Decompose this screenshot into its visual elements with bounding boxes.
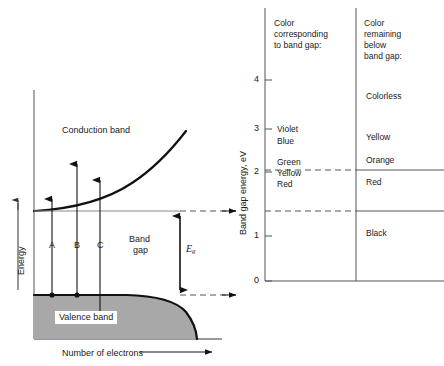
- y-tick-4: 4: [254, 74, 259, 85]
- figure-canvas: Energy Number of electrons Conduction ba…: [0, 0, 444, 366]
- band-gap-symbol-subscript: g: [192, 247, 196, 255]
- color-entry-red: Red: [277, 179, 293, 190]
- transition-label-a: A: [49, 240, 55, 251]
- column2-header-line3: below: [364, 40, 386, 51]
- column1-header-line2: corresponding: [274, 29, 328, 40]
- conduction-band-curve: [34, 131, 186, 211]
- transition-label-c: C: [97, 240, 104, 251]
- y-tick-2: 2: [254, 166, 259, 177]
- right-chart-ticks: [265, 80, 272, 281]
- column1-header-line1: Color: [274, 18, 294, 29]
- y-tick-3: 3: [254, 123, 259, 134]
- remaining-entry-colorless: Colorless: [366, 91, 401, 102]
- valence-band-label: Valence band: [55, 311, 117, 324]
- remaining-entry-black: Black: [366, 228, 387, 239]
- left-energy-axis-label: Energy: [16, 246, 27, 275]
- column1-header-line3: to band gap:: [274, 40, 321, 51]
- y-tick-0: 0: [254, 275, 259, 286]
- y-tick-1: 1: [254, 230, 259, 241]
- right-chart-y-axis-label: Band gap energy, eV: [238, 151, 249, 235]
- color-entry-yellow: Yellow: [277, 168, 301, 179]
- color-entry-blue: Blue: [277, 136, 294, 147]
- remaining-entry-yellow: Yellow: [366, 132, 390, 143]
- band-gap-label-line2: gap: [133, 245, 148, 256]
- column2-header-line4: band gap:: [364, 51, 402, 62]
- remaining-entry-red: Red: [366, 177, 382, 188]
- left-electrons-axis-label: Number of electrons: [62, 348, 143, 359]
- transition-label-b: B: [74, 240, 80, 251]
- band-gap-label-line1: Band: [129, 234, 150, 245]
- column2-header-line1: Color: [364, 18, 384, 29]
- column2-header-line2: remaining: [364, 29, 401, 40]
- color-entry-violet: Violet: [277, 124, 298, 135]
- transition-arrow-b: [74, 164, 79, 298]
- conduction-band-label: Conduction band: [62, 125, 130, 136]
- color-entry-green: Green: [277, 157, 301, 168]
- remaining-entry-orange: Orange: [366, 155, 394, 166]
- band-gap-symbol: Eg: [186, 243, 196, 257]
